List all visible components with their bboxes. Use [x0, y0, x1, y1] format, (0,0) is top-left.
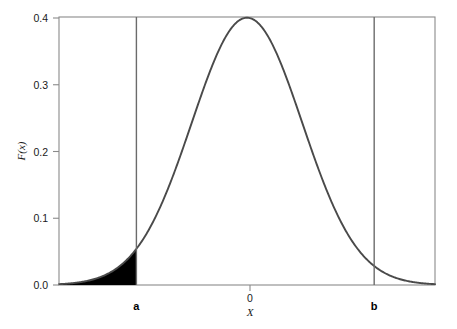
y-axis-title: F(x) — [15, 142, 27, 161]
marker-label-b: b — [371, 300, 378, 312]
x-axis-title: X — [247, 306, 254, 318]
y-axis-ticks — [53, 18, 59, 285]
y-tick-label-0.4: 0.4 — [18, 12, 48, 24]
distribution-chart: 0.4 0.3 0.2 0.1 0.0 0 a b F(x) X — [0, 0, 457, 329]
y-tick-label-0.0: 0.0 — [18, 279, 48, 291]
y-tick-label-0.3: 0.3 — [18, 79, 48, 91]
plot-frame — [59, 17, 435, 285]
chart-canvas — [0, 0, 457, 329]
y-tick-label-0.1: 0.1 — [18, 212, 48, 224]
x-tick-label-0: 0 — [247, 292, 253, 304]
marker-label-a: a — [133, 300, 139, 312]
